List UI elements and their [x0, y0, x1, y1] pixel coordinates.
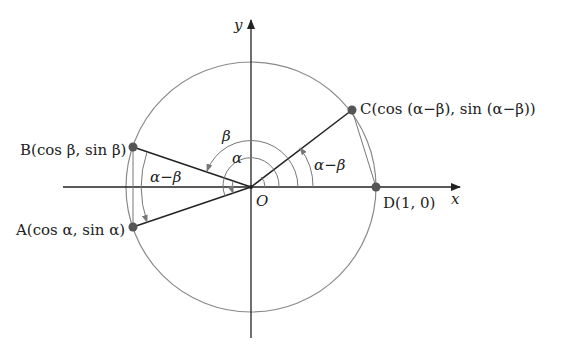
y-axis-label: y: [233, 16, 243, 34]
alpha-minus-beta-label-left: α−β: [150, 168, 182, 186]
point-A-label: A(cos α, sin α): [15, 221, 125, 239]
origin-point: [249, 185, 253, 189]
concentric-arc-2: [288, 158, 298, 187]
point-C-label: C(cos (α−β), sin (α−β)): [360, 100, 536, 118]
beta-angle-label: β: [221, 127, 231, 145]
ray-OC: [251, 110, 352, 187]
point-D: [372, 183, 381, 192]
point-B-label: B(cos β, sin β): [20, 141, 126, 159]
point-C: [348, 106, 357, 115]
alpha-minus-beta-label-right: α−β: [314, 156, 346, 174]
unit-circle-diagram: y x O B(cos β, sin β) A(cos α, sin α) C(…: [0, 0, 571, 359]
point-B: [129, 143, 138, 152]
origin-label: O: [256, 192, 268, 210]
chord-CD: [352, 110, 376, 187]
x-axis-label: x: [451, 190, 460, 208]
alpha-minus-beta-arc-right: [300, 148, 313, 187]
ray-OA: [133, 187, 251, 227]
alpha-angle-label: α: [232, 149, 242, 167]
point-D-label: D(1, 0): [383, 194, 435, 212]
beta-arc: [207, 141, 298, 187]
point-A: [129, 223, 138, 232]
